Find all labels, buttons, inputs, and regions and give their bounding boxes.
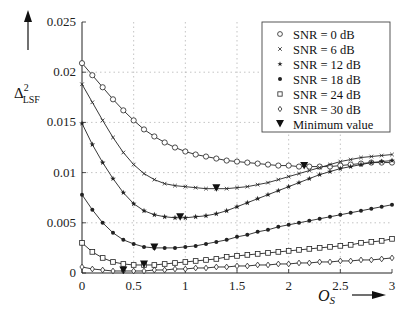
x-tick-label: 2 (285, 278, 292, 293)
x-tick-label: 0.5 (126, 278, 142, 293)
ylabel-sub: LSF (23, 94, 41, 105)
x-tick-label: 1.5 (229, 278, 245, 293)
x-tick-label: 3 (389, 278, 396, 293)
legend-label: SNR = 30 dB (293, 103, 361, 117)
x-axis-label: OS (318, 287, 386, 306)
line-chart: 00.511.522.5300.0050.010.0150.020.025 Δ2… (0, 0, 410, 319)
legend: SNR = 0 dBSNR = 6 dBSNR = 12 dBSNR = 18 … (262, 22, 390, 132)
y-axis-label: Δ2LSF (14, 10, 40, 105)
x-tick-label: 0 (79, 278, 86, 293)
y-tick-label: 0.01 (53, 165, 76, 180)
y-tick-label: 0 (70, 265, 77, 280)
legend-label: Minimum value (293, 118, 374, 132)
y-tick-label: 0.005 (47, 215, 76, 230)
x-tick-label: 1 (182, 278, 189, 293)
up-arrow-icon (24, 10, 32, 22)
y-tick-label: 0.02 (53, 64, 76, 79)
legend-label: SNR = 0 dB (293, 28, 355, 42)
y-tick-label: 0.015 (47, 114, 76, 129)
ylabel-sup: 2 (24, 82, 29, 93)
x-tick-label: 2.5 (332, 278, 348, 293)
legend-label: SNR = 24 dB (293, 88, 361, 102)
xlabel-main: O (318, 287, 330, 304)
legend-label: SNR = 18 dB (293, 73, 361, 87)
y-tick-label: 0.025 (47, 14, 76, 29)
svg-text:Δ2LSF: Δ2LSF (14, 82, 40, 105)
xlabel-sub: S (330, 294, 336, 306)
legend-label: SNR = 12 dB (293, 58, 361, 72)
legend-label: SNR = 6 dB (293, 43, 355, 57)
right-arrow-icon (372, 291, 386, 299)
